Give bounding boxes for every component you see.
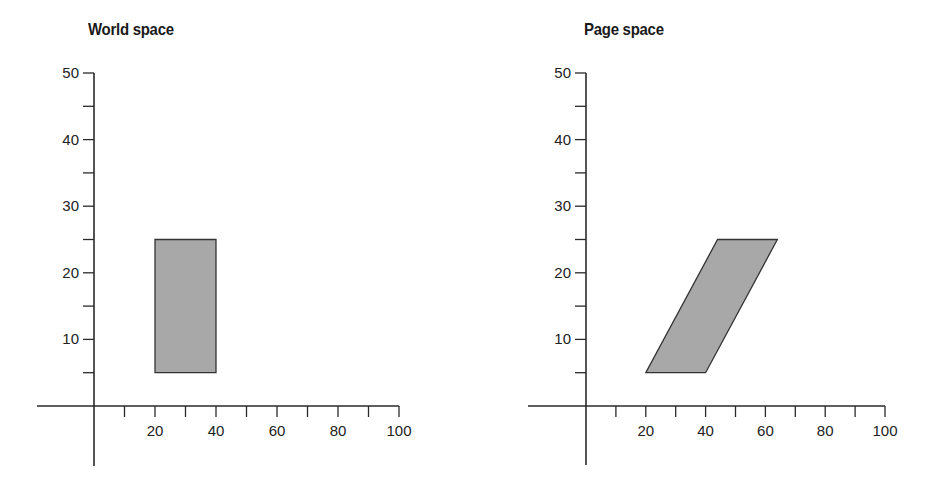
x-tick-label: 100 (872, 422, 897, 439)
y-tick-label: 50 (554, 64, 571, 81)
x-tick-label: 20 (637, 422, 654, 439)
x-tick-label: 80 (817, 422, 834, 439)
shape-parallelogram (646, 240, 778, 373)
y-tick-label: 10 (554, 330, 571, 347)
y-tick-label: 30 (554, 197, 571, 214)
page-space-panel: Page space 204060801001020304050 (0, 0, 929, 485)
y-tick-label: 20 (554, 264, 571, 281)
x-tick-label: 40 (697, 422, 714, 439)
x-tick-label: 60 (757, 422, 774, 439)
y-tick-label: 40 (554, 131, 571, 148)
page-space-plot: 204060801001020304050 (0, 0, 929, 485)
